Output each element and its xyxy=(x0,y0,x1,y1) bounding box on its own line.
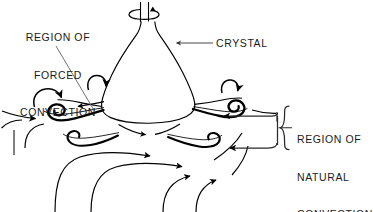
natural-line-2: NATURAL xyxy=(297,171,373,184)
forced-line-3: CONVECTION xyxy=(4,106,112,119)
forced-line-2: FORCED xyxy=(4,69,112,82)
crystal-label: CRYSTAL xyxy=(216,37,268,50)
region-of-forced-convection-label: REGION OF FORCED CONVECTION xyxy=(4,6,112,131)
region-of-natural-convection-label: REGION OF NATURAL CONVECTION xyxy=(297,108,373,212)
natural-line-1: REGION OF xyxy=(297,133,373,146)
natural-line-3: CONVECTION xyxy=(297,208,373,212)
forced-line-1: REGION OF xyxy=(4,31,112,44)
